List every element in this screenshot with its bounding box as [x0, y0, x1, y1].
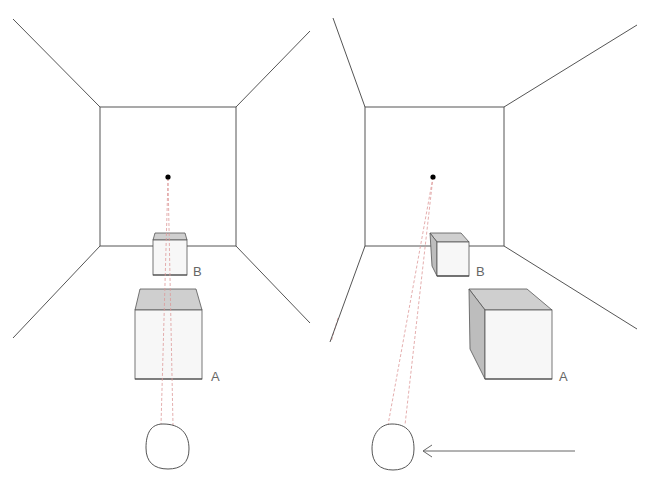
left-viewer-head	[146, 424, 189, 469]
right-sight-line-1	[388, 177, 433, 425]
left-floor-left-edge	[13, 246, 100, 338]
movement-arrow-icon	[423, 445, 575, 457]
left-label-a: A	[211, 369, 220, 384]
left-panel: B A	[13, 19, 338, 469]
left-floor-right-edge	[236, 246, 310, 323]
left-label-b: B	[193, 264, 202, 279]
right-vanishing-point	[430, 174, 435, 179]
right-label-b: B	[476, 264, 485, 279]
right-floor-left-edge	[330, 246, 365, 342]
right-box-b	[430, 233, 469, 276]
left-vanishing-point	[165, 174, 170, 179]
right-panel: B A	[330, 18, 637, 470]
right-ceiling-right-edge	[504, 25, 637, 107]
right-ceiling-left-edge	[333, 18, 365, 107]
right-label-a: A	[559, 369, 568, 384]
left-box-a	[135, 289, 202, 379]
left-ceiling-left-edge	[13, 19, 100, 107]
right-viewer-head	[372, 424, 414, 470]
right-box-a	[469, 289, 552, 379]
left-ceiling-right-edge	[236, 31, 310, 107]
right-sight-line-2	[405, 177, 433, 425]
perspective-diagram: B A B	[0, 0, 647, 481]
